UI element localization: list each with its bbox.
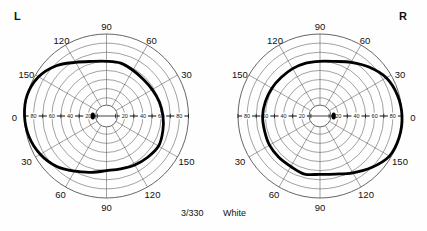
angle-label-120: 120 [267, 35, 283, 46]
radial-tick-label: 40 [353, 113, 359, 119]
angle-label-90: 90 [315, 21, 326, 32]
stimulus-color-label: White [223, 208, 246, 218]
radial-tick-label: 60 [372, 113, 378, 119]
radial-tick-label: 40 [280, 113, 286, 119]
angle-label-120: 120 [145, 189, 161, 200]
blind-spot [91, 112, 95, 119]
angle-label-150: 150 [232, 69, 248, 80]
meridian-spoke-300 [112, 125, 148, 187]
radial-tick-label: 80 [244, 113, 250, 119]
radial-tick-label: 20 [335, 113, 341, 119]
meridian-spoke-300 [325, 125, 361, 187]
radial-tick-label: 20 [85, 113, 91, 119]
radial-tick-label: 40 [140, 113, 146, 119]
meridian-spoke-330 [329, 121, 391, 157]
angle-label-0: 0 [410, 112, 415, 123]
angle-label-90: 90 [101, 202, 112, 213]
right-eye-chart: R 20204040606080809060120301500150301206… [213, 0, 426, 231]
left-eye-marker: L [14, 10, 21, 22]
angle-label-30: 30 [395, 69, 406, 80]
angle-label-120: 120 [358, 189, 374, 200]
angle-label-120: 120 [54, 35, 70, 46]
perimetry-sheet: L 20204040606080809060120301500150301206… [0, 0, 427, 231]
angle-label-60: 60 [146, 35, 157, 46]
right-eye-marker: R [399, 10, 407, 22]
angle-label-60: 60 [269, 189, 280, 200]
meridian-spoke-120 [66, 45, 102, 107]
angle-label-150: 150 [179, 156, 195, 167]
angle-label-30: 30 [21, 156, 32, 167]
radial-tick-label: 60 [49, 113, 55, 119]
left-eye-plot: 2020404060608080906012030150015030120609… [0, 0, 213, 231]
meridian-spoke-150 [35, 75, 97, 111]
right-eye-plot: 2020404060608080906012030150015030120609… [213, 0, 427, 231]
meridian-spoke-60 [112, 45, 148, 107]
meridian-spoke-240 [66, 125, 102, 187]
meridian-spoke-210 [35, 121, 97, 157]
radial-tick-label: 20 [122, 113, 128, 119]
meridian-spoke-30 [116, 75, 178, 111]
angle-label-30: 30 [235, 156, 246, 167]
angle-label-150: 150 [392, 156, 408, 167]
meridian-spoke-240 [279, 125, 315, 187]
radial-tick-label: 20 [299, 113, 305, 119]
meridian-spoke-30 [329, 75, 391, 111]
left-eye-chart: L 20204040606080809060120301500150301206… [0, 0, 213, 231]
radial-tick-label: 80 [176, 113, 182, 119]
radial-tick-label: 80 [390, 113, 396, 119]
target-size-label: 3/330 [181, 208, 204, 218]
meridian-spoke-60 [325, 45, 361, 107]
angle-label-150: 150 [19, 69, 35, 80]
angle-label-30: 30 [181, 69, 192, 80]
radial-tick-label: 80 [31, 113, 37, 119]
angle-label-0: 0 [12, 112, 17, 123]
angle-label-90: 90 [101, 21, 112, 32]
meridian-spoke-210 [249, 121, 311, 157]
blind-spot [331, 112, 335, 119]
meridian-spoke-330 [116, 121, 178, 157]
radial-tick-label: 40 [67, 113, 73, 119]
angle-label-90: 90 [315, 202, 326, 213]
angle-label-60: 60 [55, 189, 66, 200]
angle-label-60: 60 [360, 35, 371, 46]
